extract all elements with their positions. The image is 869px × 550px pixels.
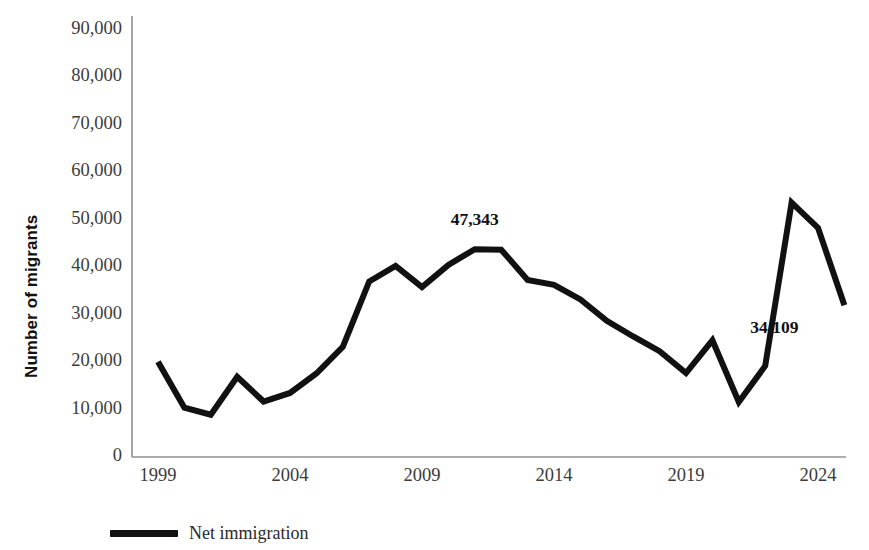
chart-container: Number of migrants 010,00020,00030,00040…: [0, 0, 869, 550]
data-label: 47,343: [425, 209, 525, 230]
legend-item-label: Net immigration: [189, 523, 308, 544]
series-line-net-immigration: [158, 203, 844, 415]
data-label: 34,109: [724, 317, 824, 338]
data-series-group: [158, 203, 844, 415]
plot-area: [0, 0, 869, 550]
chart-legend: Net immigration: [110, 523, 308, 544]
axes: [132, 16, 846, 457]
legend-line-swatch: [110, 530, 178, 537]
